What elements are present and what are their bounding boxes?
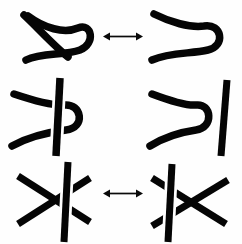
reidemeister-move-row-1 — [0, 0, 242, 76]
knot-diagram-strand-right-of-crossing — [6, 158, 102, 244]
reidemeister-moves-figure: The three Reidemeister moves relating eq… — [0, 0, 242, 244]
knot-diagram-strand-without-loop — [144, 0, 238, 76]
reidemeister-move-row-3 — [0, 158, 242, 244]
knot-diagram-strand-with-loop — [6, 0, 102, 76]
knot-diagram-strand-left-of-crossing — [142, 158, 238, 244]
reidemeister-move-row-2 — [0, 76, 242, 158]
knot-diagram-strand-withdrawn-from-line — [144, 76, 238, 158]
equivalence-arrow-r1 — [103, 30, 143, 43]
knot-diagram-strand-poked-through-line — [6, 76, 102, 158]
